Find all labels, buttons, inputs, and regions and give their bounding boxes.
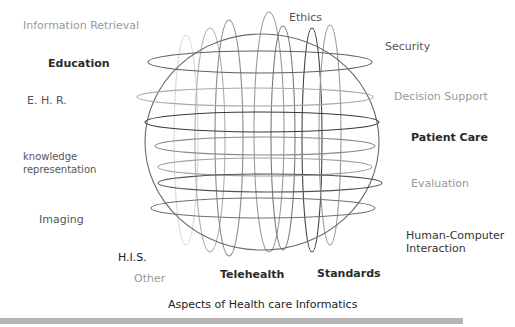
diagram-title: Aspects of Health care Informatics (168, 298, 357, 311)
label-evaluation: Evaluation (411, 177, 469, 190)
label-knowledge-representation-line2: representation (23, 163, 96, 176)
label-information-retrieval: Information Retrieval (23, 19, 139, 32)
label-other: Other (134, 272, 165, 285)
parallel-ellipse (151, 198, 375, 218)
label-knowledge-representation-line1: knowledge (23, 150, 77, 163)
label-his: H.I.S. (118, 251, 147, 264)
meridian-ellipse (195, 28, 225, 252)
label-standards: Standards (317, 267, 381, 280)
label-ethics: Ethics (289, 11, 322, 24)
label-ehr: E. H. R. (27, 94, 67, 107)
label-imaging: Imaging (39, 213, 84, 226)
meridian-ellipse (271, 26, 295, 250)
label-patient-care: Patient Care (411, 131, 488, 144)
parallel-ellipse (158, 174, 382, 192)
label-decision-support: Decision Support (394, 90, 488, 103)
label-education: Education (48, 57, 110, 70)
label-telehealth: Telehealth (220, 268, 284, 281)
parallel-ellipse (158, 158, 372, 176)
label-hci-line2: Interaction (406, 242, 466, 255)
footer-divider (0, 318, 463, 324)
label-security: Security (385, 40, 430, 53)
label-hci-line1: Human-Computer (406, 229, 504, 242)
parallel-ellipse (145, 112, 379, 132)
parallel-ellipse (155, 137, 375, 155)
